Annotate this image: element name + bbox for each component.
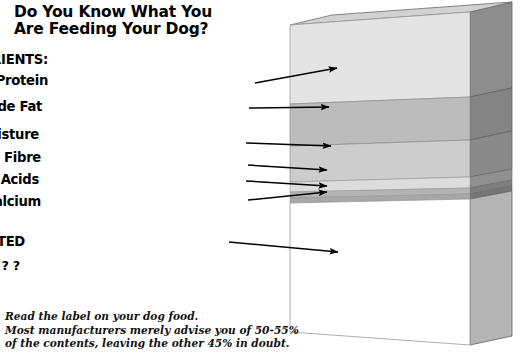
band-moisture xyxy=(290,140,470,182)
label-fatty-acids: 1.6% Fatty Acids xyxy=(0,172,44,187)
band-fat xyxy=(290,97,470,146)
footer-line-3: of the contents, leaving the other 45% i… xyxy=(5,337,305,351)
label-crude-fibre: 4.6% Crude Fibre xyxy=(0,150,46,165)
label-undocumented: UNDOCUMENTED xyxy=(0,234,30,249)
label-undocumented-value: 45.5% ? ? ? xyxy=(0,258,25,273)
label-calcium: 1.3% Calcium xyxy=(0,194,46,209)
footer-note: Read the label on your dog food. Most ma… xyxy=(5,310,305,351)
footer-line-2: Most manufacturers merely advise you of … xyxy=(5,324,305,338)
band-protein xyxy=(290,12,470,104)
footer-line-1: Read the label on your dog food. xyxy=(5,310,305,324)
label-crude-protein: 22% Crude Protein xyxy=(0,73,53,88)
band-undocumented xyxy=(290,199,470,345)
label-moisture: 11% Moisture xyxy=(0,127,44,142)
arrow-fat xyxy=(249,107,329,108)
dog-food-bag-diagram xyxy=(0,0,527,359)
side-face-undocumented xyxy=(470,191,512,345)
label-nutrients-heading: NUTRIENTS: xyxy=(0,52,53,67)
side-face-protein xyxy=(470,2,512,97)
label-crude-fat: 14% Crude Fat xyxy=(0,99,47,114)
infographic-poster: Do You Know What You Are Feeding Your Do… xyxy=(0,0,527,359)
